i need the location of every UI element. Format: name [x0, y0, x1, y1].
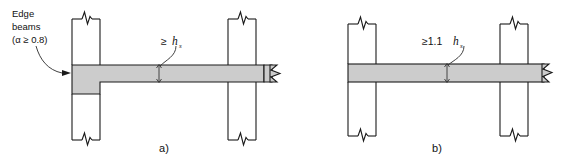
panel-b-left-column-lower	[348, 82, 376, 141]
panel-a-right-column-lower	[228, 82, 256, 145]
panel-a-left-column-lower	[72, 94, 100, 145]
panel-b-left-column-upper	[348, 17, 376, 64]
panel-b-dimension-symbol: h	[453, 35, 459, 47]
panel-b-slab	[348, 64, 552, 82]
engineering-diagram: ≥ h s Edge beams (α ≥ 0.8) a)	[0, 0, 582, 163]
figure-container: ≥ h s Edge beams (α ≥ 0.8) a)	[0, 0, 582, 163]
panel-a-callout-leader	[36, 46, 71, 76]
panel-b-dimension-prefix: ≥1.1	[422, 35, 443, 47]
panel-b: ≥1.1 h s b)	[348, 17, 552, 154]
panel-a-callout-line1: Edge	[12, 8, 34, 19]
panel-b-right-column-lower	[500, 82, 528, 141]
panel-a-callout-line2: beams	[12, 21, 41, 32]
panel-a-callout-line3: (α ≥ 0.8)	[12, 34, 48, 45]
panel-a-dimension-subscript: s	[179, 42, 182, 50]
panel-a-dimension-prefix: ≥	[161, 35, 167, 47]
panel-a-left-column-upper	[72, 12, 100, 65]
panel-b-dimension-subscript: s	[460, 42, 463, 50]
panel-b-caption: b)	[432, 142, 442, 154]
panel-a-right-column-upper	[228, 12, 256, 65]
panel-a-callout-arrowhead	[62, 70, 71, 76]
panel-a-slab-and-edge-beam	[72, 65, 280, 94]
panel-a-dimension-leader	[160, 46, 176, 66]
panel-a: ≥ h s Edge beams (α ≥ 0.8) a)	[12, 8, 280, 154]
panel-a-caption: a)	[159, 142, 169, 154]
panel-a-dimension-symbol: h	[172, 35, 178, 47]
panel-b-right-column-upper	[500, 17, 528, 64]
